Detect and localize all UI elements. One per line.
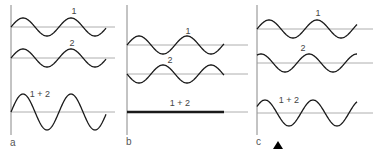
wave-label: 2 bbox=[300, 43, 305, 53]
wave-label: 2 bbox=[69, 38, 74, 48]
wave-label: 1 + 2 bbox=[170, 98, 190, 108]
panel-a: 121 + 2a bbox=[10, 5, 115, 148]
panel-label: c bbox=[256, 136, 261, 147]
interference-diagram: 121 + 2a121 + 2b121 + 2c bbox=[0, 0, 383, 155]
panel-c: 121 + 2c bbox=[256, 5, 373, 149]
panel-b: 121 + 2b bbox=[126, 5, 248, 147]
panel-label: b bbox=[126, 136, 132, 147]
wave-label: 1 + 2 bbox=[30, 89, 50, 99]
panel-label: a bbox=[10, 137, 16, 148]
triangle-marker-icon bbox=[273, 141, 283, 149]
wave-label: 1 + 2 bbox=[279, 95, 299, 105]
wave-label: 2 bbox=[167, 55, 172, 65]
wave-label: 1 bbox=[185, 26, 190, 36]
wave-label: 1 bbox=[315, 8, 320, 18]
wave-label: 1 bbox=[71, 6, 76, 16]
